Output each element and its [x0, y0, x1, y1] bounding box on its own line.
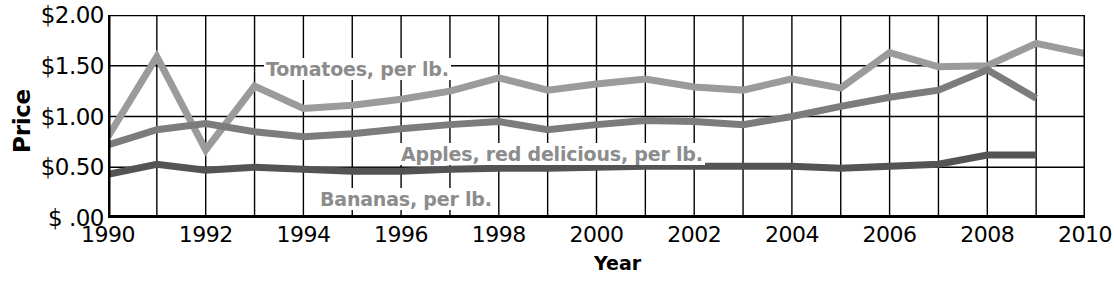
- y-tick-label: $1.50: [8, 53, 104, 79]
- y-tick-label: $1.00: [8, 104, 104, 130]
- x-tick-label: 2010: [1058, 222, 1112, 247]
- x-tick-label: 1996: [374, 222, 428, 247]
- x-tick-label: 1990: [81, 222, 135, 247]
- chart-figure: Price Year $2.00$1.50$1.00$0.50$ .00 199…: [0, 0, 1114, 286]
- x-tick-label: 1998: [472, 222, 526, 247]
- x-axis-title: Year: [0, 252, 1114, 274]
- series-label-tomatoes: Tomatoes, per lb.: [264, 58, 451, 80]
- plot-area: [108, 15, 1085, 218]
- x-tick-label: 2004: [765, 222, 819, 247]
- x-tick-label: 1994: [276, 222, 330, 247]
- series-label-bananas: Bananas, per lb.: [318, 188, 494, 210]
- x-tick-label: 2002: [667, 222, 721, 247]
- y-tick-label: $0.50: [8, 154, 104, 180]
- series-line: [108, 70, 1036, 145]
- x-tick-label: 1992: [179, 222, 233, 247]
- y-tick-label: $2.00: [8, 2, 104, 28]
- chart-canvas: [108, 15, 1085, 218]
- x-tick-label: 2006: [863, 222, 917, 247]
- gridlines: [108, 15, 1085, 218]
- x-tick-label: 2000: [570, 222, 624, 247]
- x-tick-label: 2008: [960, 222, 1014, 247]
- series-label-apples: Apples, red delicious, per lb.: [399, 143, 705, 165]
